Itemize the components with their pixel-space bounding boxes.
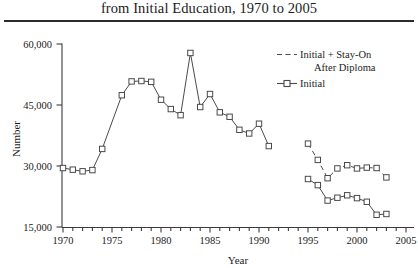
x-tick-labels: 1970 1975 1980 1985 1990 1995 2000 2005 <box>53 235 417 246</box>
legend-label-initial: Initial <box>300 77 418 90</box>
data-point-marker <box>188 50 193 55</box>
legend-label-stay-on: Initial + Stay-On <box>300 48 418 61</box>
data-point-marker <box>384 211 389 216</box>
legend-label-stay-on-cont: After Diploma <box>314 61 418 74</box>
data-point-marker <box>198 104 203 109</box>
data-point-marker <box>149 79 154 84</box>
data-point-marker <box>158 97 163 102</box>
x-tick-label: 2000 <box>347 235 368 246</box>
data-point-marker <box>325 198 330 203</box>
x-tick-label: 1975 <box>102 235 123 246</box>
data-point-marker <box>256 121 261 126</box>
data-point-marker <box>70 167 75 172</box>
series-initial-stay-on-after-diploma <box>305 141 389 181</box>
line-with-square-marker-sample-icon <box>276 77 298 90</box>
data-point-marker <box>247 131 252 136</box>
data-point-marker <box>227 114 232 119</box>
data-point-marker <box>305 176 310 181</box>
x-tick-label: 1980 <box>151 235 172 246</box>
data-point-marker <box>364 165 369 170</box>
data-point-marker <box>90 167 95 172</box>
data-point-marker <box>119 93 124 98</box>
data-point-marker <box>354 166 359 171</box>
data-point-marker <box>364 199 369 204</box>
dashed-line-sample-icon <box>276 48 298 61</box>
x-tick-label: 2005 <box>396 235 417 246</box>
y-axis <box>57 44 63 228</box>
series-line <box>63 53 269 171</box>
data-point-marker <box>354 195 359 200</box>
y-axis-title: Number <box>10 121 22 157</box>
data-point-marker <box>80 169 85 174</box>
title-block: from Initial Education, 1970 to 2005 <box>0 0 418 24</box>
data-point-marker <box>345 162 350 167</box>
y-tick-label: 60,000 <box>23 39 52 50</box>
legend-entry-initial[interactable]: Initial <box>276 77 418 90</box>
y-tick-label: 15,000 <box>23 222 52 233</box>
data-point-marker <box>168 106 173 111</box>
data-point-marker <box>217 110 222 115</box>
data-point-marker <box>178 112 183 117</box>
chart-legend: Initial + Stay-On After Diploma Initial <box>276 48 418 90</box>
chart-title: from Initial Education, 1970 to 2005 <box>0 0 418 17</box>
data-point-marker <box>100 146 105 151</box>
data-point-marker <box>139 78 144 83</box>
x-tick-label: 1970 <box>53 235 74 246</box>
data-point-marker <box>345 193 350 198</box>
y-tick-labels: 60,000 45,000 30,000 15,000 <box>23 39 52 233</box>
x-tick-label: 1985 <box>200 235 221 246</box>
data-point-marker <box>305 141 310 146</box>
y-tick-label: 30,000 <box>23 161 52 172</box>
x-tick-label: 1995 <box>298 235 319 246</box>
data-point-marker <box>325 176 330 181</box>
data-point-marker <box>374 165 379 170</box>
data-point-marker <box>384 175 389 180</box>
data-point-marker <box>335 166 340 171</box>
data-point-marker <box>335 195 340 200</box>
data-point-marker <box>207 91 212 96</box>
data-point-marker <box>129 79 134 84</box>
y-tick-label: 45,000 <box>23 100 52 111</box>
data-point-marker <box>266 143 271 148</box>
x-axis <box>62 228 414 233</box>
legend-entry-stay-on[interactable]: Initial + Stay-On After Diploma <box>276 48 418 74</box>
title-divider <box>4 20 414 22</box>
data-point-marker <box>315 182 320 187</box>
data-point-marker <box>374 212 379 217</box>
chart-figure: from Initial Education, 1970 to 2005 60,… <box>0 0 418 268</box>
x-tick-label: 1990 <box>249 235 270 246</box>
data-point-marker <box>237 127 242 132</box>
x-axis-title: Year <box>228 254 249 266</box>
data-point-marker <box>315 157 320 162</box>
data-point-marker <box>60 165 65 170</box>
x-axis-minor-ticks <box>63 228 406 233</box>
